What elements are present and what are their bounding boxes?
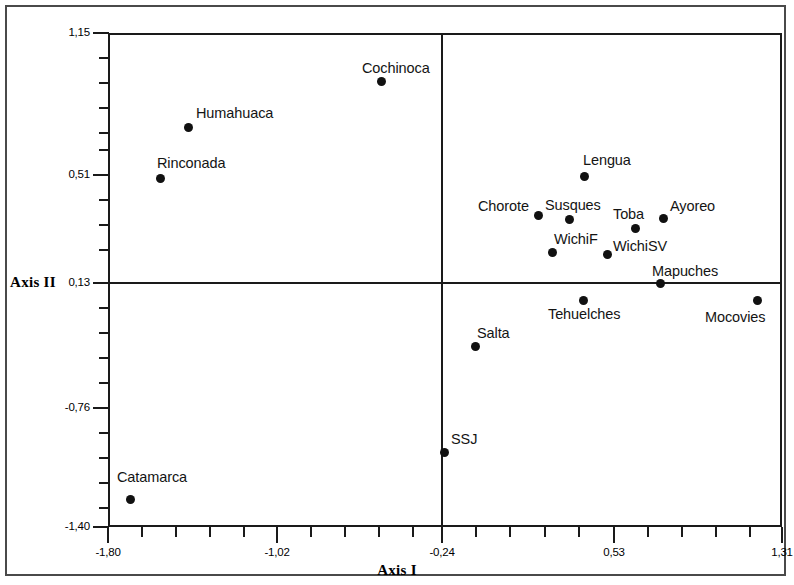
data-point (471, 342, 480, 351)
y-tick-minor (99, 224, 109, 226)
x-tick-minor (175, 527, 177, 537)
y-tick-minor (99, 132, 109, 134)
x-tick-minor (509, 527, 511, 537)
data-point (156, 174, 165, 183)
x-tick-minor (378, 527, 380, 537)
x-tick-minor (412, 527, 414, 537)
x-tick-major (107, 527, 109, 543)
x-tick-minor (209, 527, 211, 537)
data-point (548, 248, 557, 257)
y-tick-major (93, 174, 109, 176)
figure-container: 1,150,510,13-0,76-1,40 -1,80-1,02-0,240,… (0, 0, 794, 585)
x-tick-minor (578, 527, 580, 537)
data-point (440, 448, 449, 457)
data-point (659, 214, 668, 223)
y-tick-minor (99, 249, 109, 251)
y-tick-minor (99, 357, 109, 359)
data-point-label: Susques (545, 197, 601, 213)
x-tick-minor (681, 527, 683, 537)
data-point (565, 215, 574, 224)
data-point-label: WichiSV (613, 238, 667, 254)
x-tick-label: -1,80 (78, 546, 138, 558)
data-point (184, 123, 193, 132)
data-point (656, 279, 665, 288)
data-point-label: Salta (477, 325, 510, 341)
data-point (126, 495, 135, 504)
data-point (753, 296, 762, 305)
y-tick-label: -1,40 (40, 520, 90, 532)
data-point-label: Humahuaca (196, 105, 273, 121)
x-tick-major (276, 527, 278, 543)
x-tick-minor (310, 527, 312, 537)
x-tick-minor (749, 527, 751, 537)
y-tick-minor (99, 482, 109, 484)
data-point (534, 211, 543, 220)
y-tick-minor (99, 82, 109, 84)
data-point-label: Mocovies (705, 309, 765, 325)
y-tick-minor (99, 382, 109, 384)
x-tick-label: 0,53 (584, 546, 644, 558)
data-point-label: WichiF (554, 231, 598, 247)
y-tick-minor (99, 57, 109, 59)
x-tick-major (441, 527, 443, 543)
y-tick-label: -0,76 (40, 401, 90, 413)
x-tick-minor (475, 527, 477, 537)
y-tick-minor (99, 107, 109, 109)
y-tick-minor (99, 457, 109, 459)
x-tick-minor (715, 527, 717, 537)
x-tick-major (781, 527, 783, 543)
horizontal-reference-line (108, 282, 782, 284)
data-point-label: SSJ (451, 431, 477, 447)
y-tick-minor (99, 199, 109, 201)
axis-ii-title: Axis II (10, 274, 56, 291)
data-point (579, 296, 588, 305)
data-point-label: Mapuches (652, 263, 718, 279)
y-tick-minor (99, 307, 109, 309)
data-point-label: Catamarca (117, 469, 187, 485)
y-tick-minor (99, 432, 109, 434)
data-point (580, 172, 589, 181)
data-point-label: Cochinoca (362, 60, 430, 76)
axis-i-title: Axis I (0, 562, 794, 579)
data-point-label: Lengua (583, 152, 631, 168)
y-tick-major (93, 32, 109, 34)
x-tick-minor (344, 527, 346, 537)
y-tick-major (93, 282, 109, 284)
y-tick-minor (99, 507, 109, 509)
data-point-label: Rinconada (157, 155, 225, 171)
x-tick-label: -1,02 (247, 546, 307, 558)
x-tick-label: 1,31 (752, 546, 794, 558)
data-point (603, 250, 612, 259)
x-tick-label: -0,24 (412, 546, 472, 558)
data-point-label: Toba (613, 206, 644, 222)
data-point-label: Tehuelches (548, 306, 620, 322)
y-tick-major (93, 407, 109, 409)
data-point-label: Chorote (478, 198, 529, 214)
data-point (377, 77, 386, 86)
x-tick-minor (141, 527, 143, 537)
y-tick-label: 0,51 (40, 168, 90, 180)
data-point-label: Ayoreo (670, 198, 715, 214)
x-tick-minor (647, 527, 649, 537)
data-point (631, 224, 640, 233)
y-tick-label: 1,15 (40, 26, 90, 38)
x-tick-minor (544, 527, 546, 537)
x-tick-major (613, 527, 615, 543)
x-tick-minor (243, 527, 245, 537)
y-tick-minor (99, 332, 109, 334)
y-tick-minor (99, 149, 109, 151)
